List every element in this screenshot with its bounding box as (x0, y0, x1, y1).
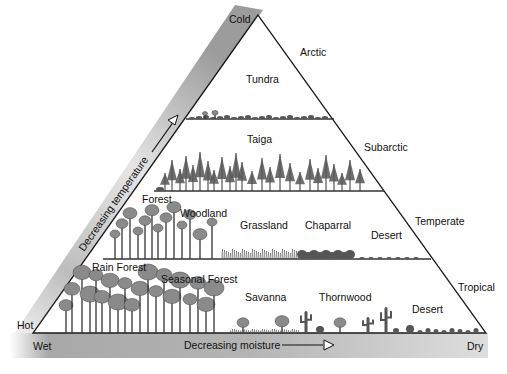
shrub-icon (406, 325, 414, 333)
shrub-icon (301, 116, 307, 119)
moisture-axis-label: Decreasing moisture (184, 339, 280, 351)
dry-label: Dry (467, 340, 484, 352)
shrub-icon (280, 116, 286, 119)
biome-label-chaparral: Chaparral (305, 219, 351, 231)
shrub-icon (466, 330, 471, 333)
shrub-icon (418, 330, 423, 333)
shrub-icon (238, 116, 244, 119)
shrub-icon (458, 329, 463, 333)
shrub-icon (224, 115, 230, 119)
biome-label-seasonal-forest: Seasonal Forest (161, 273, 238, 285)
shrub-icon (405, 257, 410, 259)
biome-pyramid-diagram: Cold Hot Wet Dry Decreasing temperature … (0, 0, 507, 374)
shrub-icon (259, 116, 265, 119)
shrub-icon (196, 116, 202, 119)
diagram-canvas: Cold Hot Wet Dry Decreasing temperature … (0, 0, 507, 374)
biome-label-woodland: Woodland (180, 207, 227, 219)
shrub-icon (434, 329, 439, 333)
shrub-icon (474, 328, 479, 333)
shrub-icon (369, 257, 374, 259)
biome-label-rain-forest: Rain Forest (92, 261, 146, 273)
shrub-icon (360, 257, 365, 259)
shrub-icon (308, 115, 314, 119)
biome-label-savanna: Savanna (245, 291, 287, 303)
shrub-icon (266, 115, 272, 119)
biome-label-temperate-desert: Desert (371, 229, 402, 241)
zone-label-tropical: Tropical (458, 281, 495, 293)
shrub-icon (396, 257, 401, 259)
shrub-icon (414, 257, 419, 259)
shrub-icon (156, 187, 164, 191)
shrub-icon (426, 328, 431, 333)
shrub-icon (273, 117, 279, 119)
shrub-icon (316, 326, 324, 333)
shrub-icon (322, 116, 328, 119)
shrub-icon (245, 115, 251, 119)
shrub-icon (252, 117, 258, 119)
shrub-icon (450, 328, 455, 333)
zone-label-temperate: Temperate (415, 215, 465, 227)
shrub-icon (442, 330, 447, 333)
shrub-icon (315, 117, 321, 119)
shrub-icon (387, 257, 392, 259)
cold-label: Cold (229, 13, 251, 25)
biome-label-thornwood: Thornwood (319, 291, 372, 303)
shrub-icon (231, 117, 237, 119)
biome-label-taiga: Taiga (247, 133, 272, 145)
shrub-icon (217, 116, 223, 119)
wet-label: Wet (33, 340, 52, 352)
shrub-icon (378, 257, 383, 259)
shrub-icon (345, 250, 355, 259)
hot-label: Hot (17, 319, 33, 331)
biome-label-grassland: Grassland (240, 219, 288, 231)
biome-label-forest: Forest (142, 193, 172, 205)
biome-label-tropical-desert: Desert (412, 303, 443, 315)
zone-label-arctic: Arctic (300, 46, 326, 58)
shrub-icon (294, 117, 300, 119)
biome-label-tundra: Tundra (246, 73, 279, 85)
zone-label-subarctic: Subarctic (364, 141, 408, 153)
shrub-icon (189, 117, 195, 119)
shrub-icon (393, 328, 399, 333)
shrub-icon (287, 115, 293, 119)
